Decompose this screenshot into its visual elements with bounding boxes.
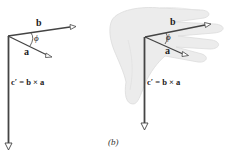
right-label-b: b [170, 17, 176, 27]
right-label-c: c′ = b × a [147, 78, 180, 87]
left-label-phi: ϕ [34, 34, 39, 43]
left-vector-diagram [5, 25, 76, 151]
right-label-a: a [165, 46, 170, 56]
left-vector-c-arrowhead [5, 143, 12, 150]
left-vector-b-arrowhead [70, 25, 76, 30]
left-label-c: c′ = b × a [11, 78, 44, 87]
left-label-b: b [36, 18, 42, 28]
right-label-phi: ϕ [166, 33, 171, 42]
left-vector-a-arrowhead [46, 53, 53, 58]
right-vector-c-arrowhead [141, 123, 148, 130]
left-label-a: a [24, 47, 29, 57]
left-vector-b [8, 27, 70, 36]
figure-caption: (b) [108, 137, 119, 147]
left-angle-arc [30, 33, 33, 46]
